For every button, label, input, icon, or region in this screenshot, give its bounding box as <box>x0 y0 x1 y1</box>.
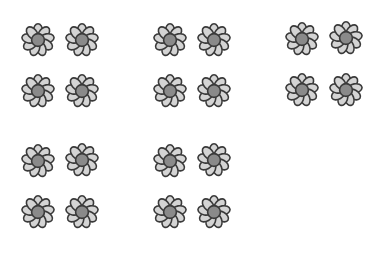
flower-icon <box>21 144 55 178</box>
flower-icon <box>285 73 319 107</box>
flower-icon <box>197 143 231 177</box>
flower-icon <box>285 22 319 56</box>
flower-icon <box>65 23 99 57</box>
flower-icon <box>197 195 231 229</box>
flower-icon <box>153 144 187 178</box>
flower-icon <box>153 195 187 229</box>
flower-icon <box>65 143 99 177</box>
flower-icon <box>329 73 363 107</box>
flower-icon <box>329 21 363 55</box>
flower-icon <box>153 74 187 108</box>
flower-icon <box>65 74 99 108</box>
flower-icon <box>21 23 55 57</box>
flower-icon <box>153 23 187 57</box>
flower-icon <box>21 74 55 108</box>
flower-icon <box>21 195 55 229</box>
flower-icon <box>197 74 231 108</box>
flower-icon <box>65 195 99 229</box>
flower-icon <box>197 23 231 57</box>
